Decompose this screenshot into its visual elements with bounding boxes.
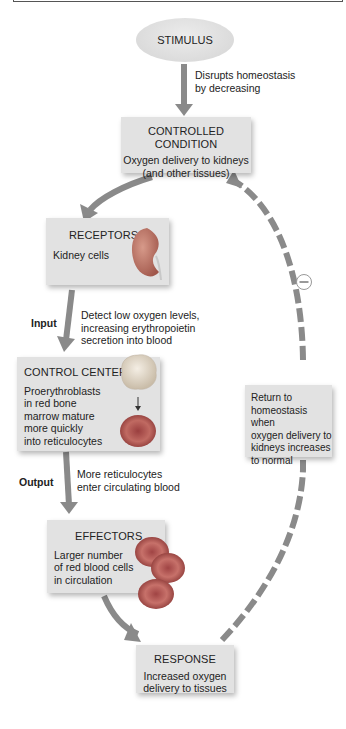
note-line: by decreasing	[195, 82, 295, 95]
stimulus-node: STIMULUS	[136, 18, 234, 62]
body-line: Increased oxygen	[136, 670, 234, 683]
body-line: Return to	[251, 392, 332, 405]
body-line: kidneys increases	[251, 442, 332, 455]
body-line: homeostasis when	[251, 405, 332, 430]
note-line: Disrupts homeostasis	[195, 69, 295, 82]
stimulus-label: STIMULUS	[157, 34, 213, 46]
arrow-input	[57, 290, 75, 352]
response-box: RESPONSE Increased oxygen delivery to ti…	[136, 645, 234, 693]
input-note: Detect low oxygen levels, increasing ery…	[81, 309, 199, 347]
note-line: increasing erythropoietin	[81, 322, 199, 335]
input-label: Input	[31, 317, 57, 329]
arrow-output	[60, 452, 78, 514]
output-label: Output	[19, 476, 53, 488]
body-line: to normal	[251, 455, 332, 468]
body-line: Oxygen delivery to kidneys	[121, 154, 251, 167]
arrow-condition-to-receptors	[80, 177, 152, 222]
body-line: oxygen delivery to	[251, 430, 332, 443]
red-blood-cells-icon	[132, 532, 186, 612]
control-center-box: CONTROL CENTER Proerythroblasts in red b…	[17, 357, 160, 451]
box-body: Oxygen delivery to kidneys (and other ti…	[121, 154, 251, 179]
stimulus-note: Disrupts homeostasis by decreasing	[195, 69, 295, 94]
note-line: Detect low oxygen levels,	[81, 309, 199, 322]
negative-feedback-sign	[297, 275, 312, 290]
receptors-box: RECEPTORS Kidney cells	[46, 218, 169, 285]
note-line: secretion into blood	[81, 334, 199, 347]
controlled-condition-box: CONTROLLED CONDITION Oxygen delivery to …	[121, 117, 251, 173]
output-note: More reticulocytes enter circulating blo…	[77, 468, 180, 493]
kidney-icon	[129, 226, 163, 282]
body-line: delivery to tissues	[136, 682, 234, 695]
body-line: (and other tissues)	[121, 167, 251, 180]
box-body: Increased oxygen delivery to tissues	[136, 670, 234, 695]
proerythroblast-to-reticulocyte-icon	[116, 351, 160, 451]
box-title: CONTROLLED CONDITION	[121, 125, 251, 150]
note-line: More reticulocytes	[77, 468, 180, 481]
arrow-stimulus-to-condition	[175, 64, 193, 116]
box-title: RESPONSE	[136, 653, 234, 666]
return-to-homeostasis-box: Return to homeostasis when oxygen delive…	[245, 385, 332, 457]
note-line: enter circulating blood	[77, 481, 180, 494]
